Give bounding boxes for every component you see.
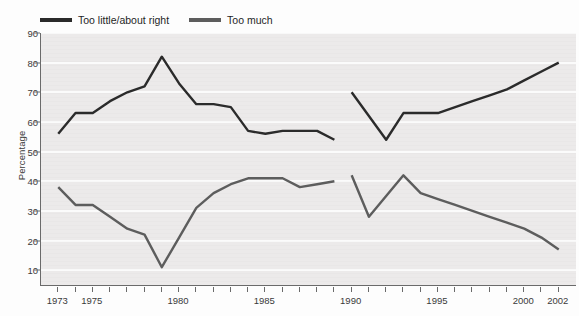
x-tick-label: 2002	[547, 295, 568, 306]
series-line-too-little-about-right-segment-0	[58, 57, 334, 140]
y-tick-label: 20	[0, 235, 38, 246]
x-tick-mark	[437, 287, 438, 292]
x-tick-label: 1980	[167, 295, 188, 306]
x-tick-mark	[540, 287, 541, 292]
legend-label-too-little-about-right: Too little/about right	[78, 15, 169, 26]
x-tick-label: 1995	[426, 295, 447, 306]
y-tick-label: 90	[0, 28, 38, 39]
x-tick-mark	[144, 287, 145, 292]
x-tick-mark	[57, 287, 58, 292]
x-tick-mark	[247, 287, 248, 292]
series-line-too-much-segment-1	[352, 175, 559, 249]
x-tick-mark	[558, 287, 559, 292]
x-tick-mark	[368, 287, 369, 292]
x-tick-mark	[471, 287, 472, 292]
x-tick-label: 2000	[513, 295, 534, 306]
x-tick-mark	[351, 287, 352, 292]
legend-swatch-too-much	[189, 18, 221, 22]
legend-entry-too-much: Too much	[189, 15, 273, 26]
x-tick-mark	[213, 287, 214, 292]
y-tick-label: 10	[0, 265, 38, 276]
x-tick-mark	[385, 287, 386, 292]
chart-legend: Too little/about right Too much	[40, 12, 273, 28]
y-tick-label: 70	[0, 87, 38, 98]
x-tick-mark	[230, 287, 231, 292]
x-tick-mark	[161, 287, 162, 292]
series-line-too-little-about-right-segment-1	[352, 63, 559, 140]
legend-entry-too-little-about-right: Too little/about right	[40, 15, 169, 26]
series-line-too-much-segment-0	[58, 178, 334, 267]
x-tick-mark	[264, 287, 265, 292]
legend-swatch-too-little-about-right	[40, 18, 72, 22]
y-tick-label: 50	[0, 146, 38, 157]
plot-area	[40, 33, 576, 286]
legend-label-too-much: Too much	[227, 15, 273, 26]
x-tick-mark	[75, 287, 76, 292]
y-tick-label: 40	[0, 176, 38, 187]
x-tick-label: 1990	[340, 295, 361, 306]
y-tick-label: 30	[0, 205, 38, 216]
x-tick-mark	[454, 287, 455, 292]
x-tick-mark	[506, 287, 507, 292]
x-tick-mark	[109, 287, 110, 292]
x-tick-mark	[195, 287, 196, 292]
x-tick-mark	[489, 287, 490, 292]
chart-container: Too little/about right Too much Percenta…	[0, 0, 579, 316]
x-tick-mark	[333, 287, 334, 292]
x-tick-label: 1975	[81, 295, 102, 306]
x-tick-mark	[402, 287, 403, 292]
x-tick-mark	[523, 287, 524, 292]
x-tick-mark	[282, 287, 283, 292]
x-tick-label: 1985	[254, 295, 275, 306]
x-tick-mark	[299, 287, 300, 292]
x-tick-mark	[126, 287, 127, 292]
y-tick-label: 80	[0, 57, 38, 68]
x-tick-label: 1973	[47, 295, 68, 306]
x-tick-mark	[92, 287, 93, 292]
series-lines	[41, 33, 576, 285]
x-tick-mark	[420, 287, 421, 292]
x-tick-mark	[178, 287, 179, 292]
y-tick-label: 60	[0, 116, 38, 127]
x-tick-mark	[316, 287, 317, 292]
